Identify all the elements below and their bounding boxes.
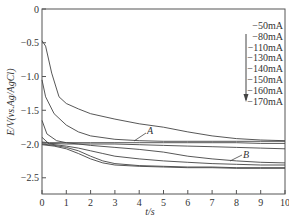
x-tick-label: 4	[137, 197, 142, 208]
y-tick-label: −1.0	[21, 71, 39, 82]
y-tick-label: −1.5	[21, 105, 39, 116]
x-tick-label: 7	[210, 197, 215, 208]
annotation-a: A	[146, 125, 154, 136]
legend-entry: −50mA	[252, 20, 283, 31]
legend-entry: −160mA	[247, 85, 283, 96]
y-axis-label: E/V(vs.Ag/AgCl)	[5, 68, 17, 137]
x-tick-label: 3	[112, 197, 117, 208]
x-tick-label: 1	[64, 197, 69, 208]
y-tick-label: 0	[34, 4, 39, 15]
x-tick-label: 9	[258, 197, 263, 208]
x-tick-label: 8	[234, 197, 239, 208]
legend-entry: −170mA	[247, 96, 283, 107]
x-axis-label: t/s	[145, 206, 155, 217]
x-tick-label: 0	[40, 197, 45, 208]
x-tick-label: 2	[88, 197, 93, 208]
x-axis-ticks: 012345678910	[40, 190, 290, 208]
annotation-b: B	[243, 149, 249, 160]
chart: 012345678910 0−0.5−1.0−1.5−2.0−2.5 −50mA…	[0, 0, 289, 219]
legend-entry: −80mA	[252, 31, 283, 42]
y-tick-label: −0.5	[21, 37, 39, 48]
y-tick-label: −2.0	[21, 139, 39, 150]
x-tick-label: 10	[280, 197, 289, 208]
series-curve-A	[42, 142, 285, 143]
y-tick-label: −2.5	[21, 172, 39, 183]
x-tick-label: 6	[185, 197, 190, 208]
legend-entry: −140mA	[247, 63, 283, 74]
legend-entry: −110mA	[248, 42, 284, 53]
x-tick-label: 5	[161, 197, 166, 208]
legend: −50mA−80mA−110mA−130mA−140mA−150mA−160mA…	[244, 20, 284, 107]
legend-entry: −150mA	[247, 74, 283, 85]
legend-entry: −130mA	[247, 52, 283, 63]
